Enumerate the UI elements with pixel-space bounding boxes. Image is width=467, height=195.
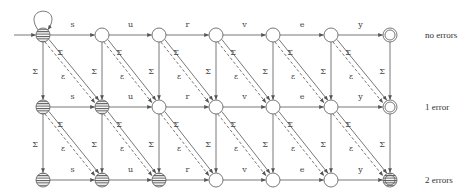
match-label: r: [186, 165, 190, 174]
insertion-label: Σ: [320, 140, 326, 149]
deletion-label: ε: [349, 144, 353, 153]
insertion-label: Σ: [379, 140, 385, 149]
match-label: v: [241, 165, 247, 174]
deletion-label: ε: [61, 144, 65, 153]
state-node: [383, 100, 397, 114]
deletion-label: ε: [120, 144, 124, 153]
states: [36, 28, 397, 187]
match-label: e: [300, 92, 305, 101]
state-node: [95, 28, 109, 42]
match-label: u: [128, 92, 133, 101]
self-loop: [34, 11, 52, 30]
state-node: [383, 28, 397, 42]
deletion-label: ε: [120, 72, 124, 81]
deletion-label: ε: [61, 72, 65, 81]
match-label: r: [186, 20, 190, 29]
deletion-label: ε: [291, 72, 295, 81]
row-label: 2 errors: [425, 175, 453, 185]
match-label: e: [300, 165, 305, 174]
match-label: v: [241, 92, 247, 101]
state-node: [324, 173, 338, 187]
state-node: [324, 28, 338, 42]
deletion-label: ε: [177, 72, 181, 81]
insertion-label: Σ: [262, 67, 268, 76]
substitution-label: Σ: [116, 120, 122, 129]
match-label: u: [128, 20, 133, 29]
insertion-label: Σ: [148, 140, 154, 149]
levenshtein-automaton-diagram: sΣΣεuΣΣεrΣΣεvΣΣεeΣΣεyΣΣεΣsΣΣεuΣΣεrΣΣεvΣΣ…: [0, 0, 467, 195]
match-label: s: [70, 165, 74, 174]
substitution-label: Σ: [57, 120, 63, 129]
state-node: [36, 173, 50, 187]
state-node: [209, 100, 223, 114]
deletion-label: ε: [349, 72, 353, 81]
insertion-label: Σ: [205, 140, 211, 149]
insertion-label: Σ: [205, 67, 211, 76]
state-node: [266, 28, 280, 42]
state-node: [324, 100, 338, 114]
state-node: [152, 173, 166, 187]
substitution-label: Σ: [345, 48, 351, 57]
state-node: [95, 173, 109, 187]
state-node: [383, 173, 397, 187]
substitution-label: Σ: [116, 48, 122, 57]
match-label: y: [357, 165, 363, 174]
match-label: u: [128, 165, 133, 174]
state-node: [95, 100, 109, 114]
insertion-label: Σ: [32, 67, 38, 76]
substitution-label: Σ: [173, 120, 179, 129]
state-node: [152, 28, 166, 42]
substitution-label: Σ: [287, 120, 293, 129]
substitution-label: Σ: [287, 48, 293, 57]
substitution-label: Σ: [173, 48, 179, 57]
state-node: [36, 100, 50, 114]
deletion-label: ε: [234, 72, 238, 81]
substitution-label: Σ: [345, 120, 351, 129]
match-label: r: [186, 92, 190, 101]
match-label: v: [241, 20, 247, 29]
deletion-label: ε: [177, 144, 181, 153]
insertion-label: Σ: [148, 67, 154, 76]
insertion-label: Σ: [32, 140, 38, 149]
substitution-label: Σ: [230, 120, 236, 129]
insertion-label: Σ: [262, 140, 268, 149]
insertion-label: Σ: [91, 67, 97, 76]
row-label: no errors: [425, 30, 458, 40]
match-label: e: [300, 20, 305, 29]
match-label: y: [357, 20, 363, 29]
row-label: 1 error: [425, 102, 449, 112]
insertion-label: Σ: [320, 67, 326, 76]
deletion-label: ε: [291, 144, 295, 153]
match-label: y: [357, 92, 363, 101]
insertion-label: Σ: [379, 67, 385, 76]
deletion-label: ε: [234, 144, 238, 153]
state-node: [266, 100, 280, 114]
row-labels: no errors1 error2 errors: [425, 30, 458, 185]
match-label: s: [70, 92, 74, 101]
edge-labels: sΣΣεuΣΣεrΣΣεvΣΣεeΣΣεyΣΣεΣsΣΣεuΣΣεrΣΣεvΣΣ…: [32, 20, 385, 174]
state-node: [209, 28, 223, 42]
match-label: s: [70, 20, 74, 29]
state-node: [209, 173, 223, 187]
state-node: [36, 28, 50, 42]
substitution-label: Σ: [57, 48, 63, 57]
state-node: [152, 100, 166, 114]
state-node: [266, 173, 280, 187]
substitution-label: Σ: [230, 48, 236, 57]
insertion-label: Σ: [91, 140, 97, 149]
